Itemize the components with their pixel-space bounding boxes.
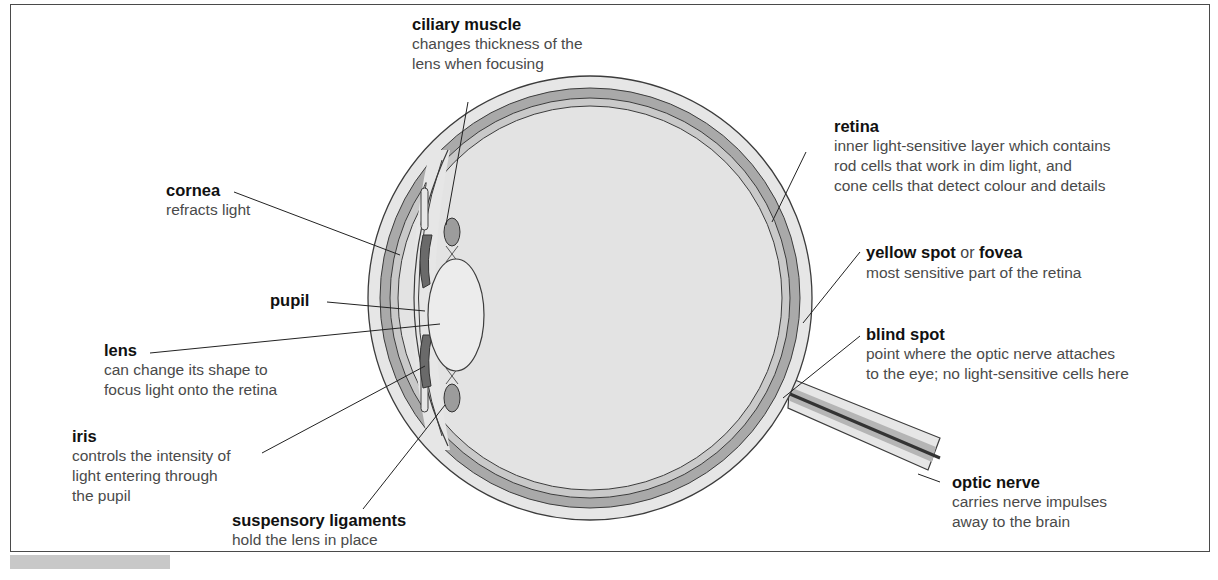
label-ciliary-muscle-title: ciliary muscle: [412, 14, 583, 34]
label-fovea-title-a: yellow spot: [866, 243, 956, 261]
label-fovea-desc: most sensitive part of the retina: [866, 263, 1081, 283]
label-lens: lens can change its shape to focus light…: [104, 340, 277, 400]
ciliary-muscle-lower: [444, 384, 460, 412]
label-fovea: yellow spot or fovea most sensitive part…: [866, 242, 1081, 283]
label-optic-nerve-title: optic nerve: [952, 472, 1107, 492]
label-optic-nerve-desc: carries nerve impulses away to the brain: [952, 492, 1107, 532]
label-retina-title: retina: [834, 116, 1111, 136]
label-blind-spot-title: blind spot: [866, 324, 1129, 344]
label-suspensory-ligaments: suspensory ligaments hold the lens in pl…: [232, 510, 406, 550]
label-ciliary-muscle: ciliary muscle changes thickness of the …: [412, 14, 583, 74]
label-retina: retina inner light-sensitive layer which…: [834, 116, 1111, 196]
lens-shape: [428, 259, 484, 371]
label-iris: iris controls the intensity of light ent…: [72, 426, 231, 506]
optic-nerve-shape: [788, 378, 940, 470]
label-lens-title: lens: [104, 340, 277, 360]
label-blind-spot: blind spot point where the optic nerve a…: [866, 324, 1129, 384]
label-retina-desc: inner light-sensitive layer which contai…: [834, 136, 1111, 196]
label-ciliary-muscle-desc: changes thickness of the lens when focus…: [412, 34, 583, 74]
label-cornea: cornea refracts light: [166, 180, 250, 220]
label-cornea-title: cornea: [166, 180, 250, 200]
label-fovea-title-b: fovea: [979, 243, 1022, 261]
label-lens-desc: can change its shape to focus light onto…: [104, 360, 277, 400]
label-fovea-title: yellow spot or fovea: [866, 242, 1081, 263]
label-fovea-or: or: [956, 244, 979, 261]
label-pupil-title: pupil: [270, 290, 309, 310]
label-iris-desc: controls the intensity of light entering…: [72, 446, 231, 506]
label-suspensory-ligaments-title: suspensory ligaments: [232, 510, 406, 530]
label-pupil: pupil: [270, 290, 309, 310]
label-iris-title: iris: [72, 426, 231, 446]
label-blind-spot-desc: point where the optic nerve attaches to …: [866, 344, 1129, 384]
label-cornea-desc: refracts light: [166, 200, 250, 220]
label-suspensory-ligaments-desc: hold the lens in place: [232, 530, 406, 550]
label-optic-nerve: optic nerve carries nerve impulses away …: [952, 472, 1107, 532]
figure-caption-tab: [10, 555, 170, 569]
